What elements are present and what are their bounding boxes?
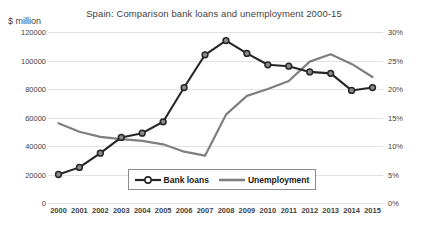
data-point-bank-loans [244,50,250,56]
legend-label-unemployment: Unemployment [248,175,309,185]
data-point-bank-loans [265,62,271,68]
series-layer [0,0,428,226]
data-point-bank-loans [118,135,124,141]
data-point-bank-loans [370,85,376,91]
legend-item-unemployment[interactable]: Unemployment [219,175,309,185]
legend-swatch-bank-loans [135,175,161,185]
series-markers-bank-loans [56,38,376,178]
data-point-bank-loans [181,85,187,91]
data-point-bank-loans [202,52,208,58]
series-line-bank-loans [58,41,372,175]
data-point-bank-loans [97,150,103,156]
data-point-bank-loans [77,164,83,170]
data-point-bank-loans [160,119,166,125]
legend-label-bank-loans: Bank loans [164,175,209,185]
data-point-bank-loans [139,130,145,136]
data-point-bank-loans [56,172,62,178]
legend-swatch-unemployment [219,175,245,185]
data-point-bank-loans [307,69,313,75]
series-line-unemployment [58,54,372,155]
data-point-bank-loans [349,88,355,94]
chart-legend: Bank loans Unemployment [128,169,316,190]
data-point-bank-loans [223,38,229,44]
legend-item-bank-loans[interactable]: Bank loans [135,175,209,185]
chart-container: Spain: Comparison bank loans and unemplo… [0,0,428,226]
data-point-bank-loans [328,70,334,76]
data-point-bank-loans [286,63,292,69]
